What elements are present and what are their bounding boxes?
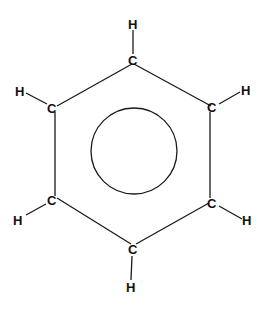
atom-c-bottom: C	[128, 242, 138, 257]
bond-ch-bottom	[131, 256, 132, 280]
atom-h-upper-left: H	[15, 84, 24, 99]
atom-h-upper-right: H	[241, 83, 250, 98]
bond-top-upper-right	[134, 64, 211, 106]
bond-upper-left-top	[57, 64, 132, 106]
bond-lower-right-bottom	[136, 203, 209, 244]
bond-ch-lower-left	[26, 204, 46, 215]
bond-ch-lower-right	[219, 206, 242, 219]
atom-h-bottom: H	[126, 280, 135, 295]
atom-c-lower-right: C	[207, 196, 217, 211]
atom-h-top: H	[128, 17, 137, 32]
aromatic-ring-circle	[91, 108, 177, 194]
atom-c-upper-right: C	[207, 100, 217, 115]
bond-ch-upper-left	[26, 93, 47, 104]
bond-bottom-lower-left	[57, 198, 131, 244]
benzene-diagram: H C H C H C C H C H C H	[0, 0, 268, 311]
atom-c-lower-left: C	[47, 193, 57, 208]
atom-h-lower-right: H	[242, 213, 251, 228]
bond-ch-upper-right	[219, 92, 240, 104]
atom-c-upper-left: C	[47, 101, 57, 116]
atom-h-lower-left: H	[13, 213, 22, 228]
atom-c-top: C	[128, 53, 138, 68]
